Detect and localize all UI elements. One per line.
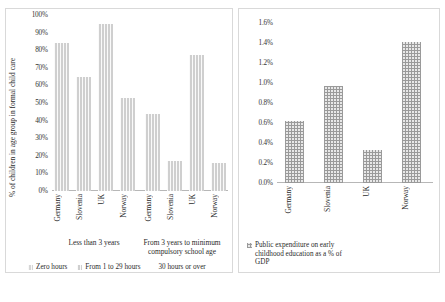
public-expenditure-chart-panel: 1.6% 1.4% 1.2% 1.0% 0.8% 0.6% 0.4% 0.2% … bbox=[238, 8, 440, 273]
bar-gdp-uk[interactable] bbox=[363, 150, 382, 183]
left-chart-y-axis-ticks: 100% 90% 80% 70% 60% 50% 40% 30% 20% 10%… bbox=[18, 15, 48, 191]
category-label-germany-3plus: Germany bbox=[144, 194, 153, 222]
y-tick-label: 0.8% bbox=[258, 99, 273, 107]
legend-label-zero-hours: Zero hours bbox=[36, 263, 67, 272]
y-tick-label: 100% bbox=[32, 11, 48, 19]
left-chart-category-labels: Germany Slovenia UK Norway Germany Slove… bbox=[52, 194, 228, 236]
bar-norway-lt3[interactable] bbox=[120, 98, 135, 191]
bar-norway-3plus[interactable] bbox=[211, 163, 226, 191]
right-chart-y-axis-ticks: 1.6% 1.4% 1.2% 1.0% 0.8% 0.6% 0.4% 0.2% … bbox=[243, 23, 273, 183]
right-chart-legend: Public expenditure on early childhood ed… bbox=[247, 241, 361, 267]
legend-swatch-gdp-icon bbox=[247, 243, 252, 248]
legend-label-1-to-29-hours: From 1 to 29 hours bbox=[85, 263, 140, 272]
y-tick-label: 1.6% bbox=[258, 19, 273, 27]
legend-swatch-1-to-29-hours-icon bbox=[77, 265, 82, 270]
bar-gdp-slovenia[interactable] bbox=[324, 86, 343, 183]
childcare-participation-chart-panel: % of children in age group in formal chi… bbox=[5, 8, 233, 273]
category-label-gdp-slovenia: Slovenia bbox=[323, 186, 332, 212]
category-label-slovenia-lt3: Slovenia bbox=[75, 194, 84, 220]
bar-uk-3plus[interactable] bbox=[189, 55, 204, 191]
legend-item-30-hours-or-over[interactable]: 30 hours or over bbox=[150, 263, 205, 272]
bar-gdp-germany[interactable] bbox=[285, 121, 304, 183]
group-label-3-years-to-school-age: From 3 years to minimum compulsory schoo… bbox=[136, 239, 228, 256]
left-chart-legend: Zero hours From 1 to 29 hours 30 hours o… bbox=[28, 263, 216, 272]
y-tick-label: 0.4% bbox=[258, 139, 273, 147]
y-tick-label: 90% bbox=[35, 29, 48, 37]
bar-germany-lt3[interactable] bbox=[54, 43, 69, 191]
group-label-less-than-3-years: Less than 3 years bbox=[48, 239, 140, 248]
right-chart-category-labels: Germany Slovenia UK Norway bbox=[277, 186, 433, 228]
y-tick-label: 80% bbox=[35, 46, 48, 54]
y-tick-label: 1.0% bbox=[258, 79, 273, 87]
bar-uk-lt3[interactable] bbox=[98, 24, 113, 191]
y-tick-label: 10% bbox=[35, 169, 48, 177]
legend-swatch-zero-hours-icon bbox=[28, 265, 33, 270]
category-label-gdp-germany: Germany bbox=[284, 186, 293, 214]
y-tick-label: 20% bbox=[35, 152, 48, 160]
category-label-gdp-uk: UK bbox=[362, 186, 371, 197]
legend-label-30-hours-or-over: 30 hours or over bbox=[158, 263, 205, 272]
category-label-slovenia-3plus: Slovenia bbox=[166, 194, 175, 220]
left-chart-plot-area bbox=[52, 15, 228, 191]
category-label-uk-3plus: UK bbox=[188, 194, 197, 205]
y-tick-label: 0.0% bbox=[258, 179, 273, 187]
y-tick-label: 30% bbox=[35, 134, 48, 142]
y-tick-label: 0.6% bbox=[258, 119, 273, 127]
legend-item-gdp[interactable]: Public expenditure on early childhood ed… bbox=[247, 241, 351, 267]
y-tick-label: 0% bbox=[39, 187, 48, 195]
category-label-norway-lt3: Norway bbox=[119, 194, 128, 218]
bar-slovenia-lt3[interactable] bbox=[76, 77, 91, 191]
legend-item-1-to-29-hours[interactable]: From 1 to 29 hours bbox=[77, 263, 140, 272]
bar-slovenia-3plus[interactable] bbox=[167, 161, 182, 191]
bar-gdp-norway[interactable] bbox=[402, 42, 421, 183]
y-tick-label: 40% bbox=[35, 117, 48, 125]
y-tick-label: 50% bbox=[35, 99, 48, 107]
category-label-uk-lt3: UK bbox=[97, 194, 106, 205]
left-chart-y-axis-title: % of children in age group in formal chi… bbox=[8, 15, 17, 197]
y-tick-label: 1.2% bbox=[258, 59, 273, 67]
legend-item-zero-hours[interactable]: Zero hours bbox=[28, 263, 67, 272]
y-tick-label: 1.4% bbox=[258, 39, 273, 47]
y-tick-label: 0.2% bbox=[258, 159, 273, 167]
y-tick-label: 60% bbox=[35, 81, 48, 89]
bar-germany-3plus[interactable] bbox=[145, 114, 160, 191]
category-label-norway-3plus: Norway bbox=[210, 194, 219, 218]
right-chart-plot-area bbox=[277, 23, 433, 183]
category-label-gdp-norway: Norway bbox=[401, 186, 410, 210]
category-label-germany-lt3: Germany bbox=[53, 194, 62, 222]
legend-label-gdp: Public expenditure on early childhood ed… bbox=[255, 241, 351, 267]
y-tick-label: 70% bbox=[35, 64, 48, 72]
